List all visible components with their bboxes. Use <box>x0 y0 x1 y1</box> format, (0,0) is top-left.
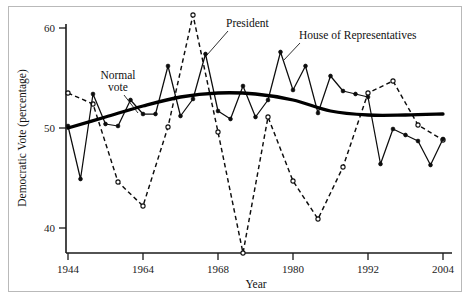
data-point <box>254 115 258 119</box>
annotation-president-label: President <box>226 17 270 29</box>
data-point <box>341 89 345 93</box>
chart-canvas: 60 50 40 Democratic Vote (percentage) 19… <box>0 0 470 304</box>
data-point <box>241 251 245 255</box>
annotation-house: House of Representatives <box>283 29 417 61</box>
x-tick-label-1992: 1992 <box>357 263 379 275</box>
data-point <box>441 137 445 141</box>
series-path <box>68 93 443 128</box>
data-point <box>416 123 420 127</box>
data-point <box>104 122 108 126</box>
figure-container: 60 50 40 Democratic Vote (percentage) 19… <box>0 0 470 304</box>
data-point <box>266 98 270 102</box>
data-point <box>154 112 158 116</box>
data-point <box>329 74 333 78</box>
x-tick-label-1964: 1964 <box>132 263 155 275</box>
data-point <box>291 179 295 183</box>
data-point <box>316 217 320 221</box>
y-tick-label-50: 50 <box>44 122 56 134</box>
data-point <box>391 79 395 83</box>
data-point <box>116 124 120 128</box>
data-point <box>241 84 245 88</box>
data-point <box>341 165 345 169</box>
data-point <box>166 125 170 129</box>
annotation-normal-vote-line1: Normal <box>100 69 135 81</box>
y-tick-label-40: 40 <box>44 222 56 234</box>
data-point <box>379 162 383 166</box>
data-point <box>79 177 83 181</box>
data-point <box>416 139 420 143</box>
data-point <box>429 163 433 167</box>
data-point <box>66 91 70 95</box>
data-point <box>216 130 220 134</box>
y-tick-label-60: 60 <box>44 22 56 34</box>
data-point <box>116 180 120 184</box>
data-point <box>391 127 395 131</box>
data-point <box>304 64 308 68</box>
data-point <box>191 13 195 17</box>
annotation-normal-vote: Normal vote <box>100 69 138 113</box>
x-axis: 1944 1964 1968 1980 1992 2004 Year <box>57 253 455 290</box>
data-point <box>279 50 283 54</box>
data-point <box>216 109 220 113</box>
data-point <box>141 112 145 116</box>
data-point <box>179 114 183 118</box>
annotation-president-leader <box>207 31 228 55</box>
data-point <box>91 92 95 96</box>
annotation-president: President <box>207 17 270 55</box>
data-point <box>366 95 370 99</box>
data-point <box>204 52 208 56</box>
x-axis-title: Year <box>245 278 266 290</box>
x-tick-label-1944: 1944 <box>57 263 80 275</box>
data-point <box>141 204 145 208</box>
data-point <box>291 88 295 92</box>
data-point <box>316 111 320 115</box>
x-tick-label-1980: 1980 <box>282 263 305 275</box>
x-tick-label-2004: 2004 <box>432 263 455 275</box>
data-point <box>166 64 170 68</box>
series-path <box>68 15 443 253</box>
data-point <box>191 97 195 101</box>
annotation-house-label: House of Representatives <box>299 29 417 42</box>
annotation-house-leader <box>283 43 300 61</box>
data-point <box>404 133 408 137</box>
y-axis-title: Democratic Vote (percentage) <box>16 69 29 207</box>
data-point <box>366 91 370 95</box>
data-point <box>354 92 358 96</box>
annotation-normal-vote-line2: vote <box>108 81 128 93</box>
data-point <box>266 115 270 119</box>
x-tick-label-1968: 1968 <box>207 263 230 275</box>
y-axis: 60 50 40 Democratic Vote (percentage) <box>16 22 66 253</box>
series-normal-vote <box>68 93 443 128</box>
series-president <box>66 13 445 255</box>
data-point <box>229 117 233 121</box>
